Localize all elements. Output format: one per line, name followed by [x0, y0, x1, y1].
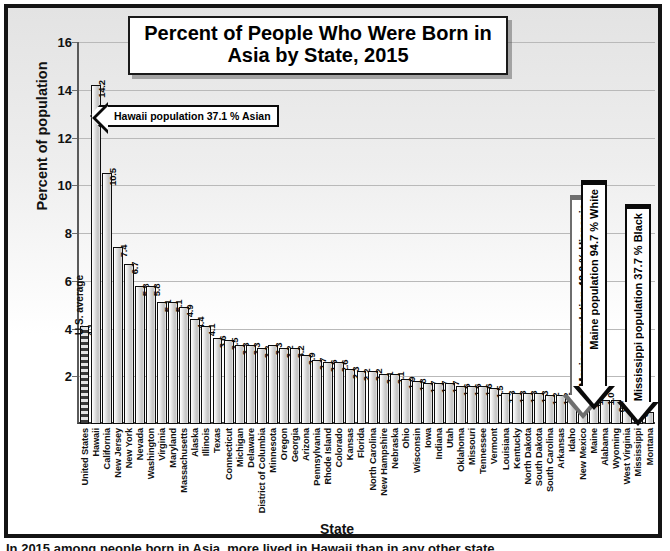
- x-label-slot: Rhode Island: [323, 426, 334, 522]
- x-label-slot: New Hampshire: [378, 426, 389, 522]
- annotation-hawaii-text: Hawaii population 37.1 % Asian: [106, 105, 279, 127]
- bar: 2.1: [379, 374, 389, 424]
- x-axis-tick-label: Rhode Island: [323, 428, 333, 485]
- annotation-mississippi-text: Mississippi population 37.7 % Black: [633, 213, 644, 401]
- x-axis-tick-label: Ohio: [401, 428, 411, 449]
- x-axis-tick-label: Idaho: [567, 428, 577, 452]
- x-axis-tick-label: Georgia: [290, 428, 300, 462]
- bar: 2.6: [334, 362, 344, 424]
- x-axis-tick-label: Iowa: [423, 428, 433, 448]
- x-label-slot: Maine: [589, 426, 600, 522]
- bar-slot: 2.6: [334, 42, 345, 424]
- x-axis-title: State: [8, 521, 666, 537]
- x-label-slot: District of Columbia: [256, 426, 267, 522]
- x-axis-tick-label: New Jersey: [113, 428, 123, 478]
- bottom-caption: In 2015 among people born in Asia, more …: [6, 542, 662, 551]
- bar-slot: 2.1: [378, 42, 389, 424]
- x-axis-tick-label: New Mexico: [578, 428, 588, 480]
- x-axis-tick-label: Kansas: [345, 428, 355, 460]
- annotation-callout-mississippi: Mississippi population 37.7 % Black: [617, 204, 659, 426]
- bar: 1.7: [423, 383, 433, 424]
- x-label-slot: Minnesota: [267, 426, 278, 522]
- x-label-slot: New Jersey: [112, 426, 123, 522]
- chart-frame: 246810121416 Percent of population 4.1U.…: [4, 4, 662, 538]
- x-axis-tick-label: Indiana: [434, 428, 444, 460]
- x-label-slot: Florida: [356, 426, 367, 522]
- bar: 14.2: [91, 85, 101, 424]
- x-axis-tick-label: Pennsylvania: [312, 428, 322, 486]
- x-label-slot: Texas: [212, 426, 223, 522]
- bar: 1.7: [434, 383, 444, 424]
- bar-slot: 4.4: [190, 42, 201, 424]
- bar-slot: 5.8: [145, 42, 156, 424]
- bar: 1.3: [501, 393, 511, 424]
- bar: 2.2: [368, 371, 378, 424]
- bar-slot: 4.9: [179, 42, 190, 424]
- bar: 7.4: [113, 247, 123, 424]
- bar-slot: 6.7: [123, 42, 134, 424]
- x-axis-tick-label: Colorado: [334, 428, 344, 468]
- bar-slot: 1.8: [411, 42, 422, 424]
- bar: 4.4: [190, 319, 200, 424]
- x-axis-category-labels: United StatesHawaiiCaliforniaNew JerseyN…: [79, 426, 655, 522]
- y-axis-tick-label: 2: [36, 369, 72, 384]
- annotation-maine-text: Maine population 94.7 % White: [589, 189, 600, 350]
- x-axis-tick-label: Massachusetts: [179, 428, 189, 493]
- x-label-slot: South Carolina: [544, 426, 555, 522]
- bar: 3.3: [246, 345, 256, 424]
- bar: 4.1: [201, 326, 211, 424]
- x-axis-tick-label: Arkansas: [556, 428, 566, 469]
- x-axis-tick-label: Alabama: [600, 428, 610, 466]
- bar-slot: 2.6: [323, 42, 334, 424]
- chart-screenshot: 246810121416 Percent of population 4.1U.…: [0, 0, 670, 551]
- x-label-slot: Michigan: [234, 426, 245, 522]
- x-label-slot: Indiana: [434, 426, 445, 522]
- x-axis-tick-label: Mississippi: [633, 428, 643, 476]
- x-label-slot: United States: [79, 426, 90, 522]
- x-axis-tick-label: Michigan: [235, 428, 245, 467]
- bar-slot: 3.5: [223, 42, 234, 424]
- x-label-slot: North Carolina: [367, 426, 378, 522]
- arrow-left-icon: [90, 105, 108, 127]
- bar-slot: 5.1: [168, 42, 179, 424]
- x-axis-tick-label: Montana: [645, 428, 655, 465]
- bar-slot: 5.1: [157, 42, 168, 424]
- x-axis-tick-label: Oklahoma: [456, 428, 466, 472]
- x-axis-tick-label: North Dakota: [523, 428, 533, 485]
- bar-slot: 2.9: [301, 42, 312, 424]
- bar-slot: 4.1U.S. average: [79, 42, 90, 424]
- bar: 5.8: [146, 286, 156, 424]
- chart-title-line-2: Asia by State, 2015: [138, 44, 498, 66]
- x-axis-tick-label: Arizona: [301, 428, 311, 461]
- y-axis-tick-label: 4: [36, 321, 72, 336]
- x-label-slot: Missouri: [467, 426, 478, 522]
- bar: 1.5: [489, 388, 499, 424]
- x-axis-tick-label: South Dakota: [534, 428, 544, 486]
- x-axis-tick-label: New York: [124, 428, 134, 468]
- bar-slot: 3.2: [278, 42, 289, 424]
- x-axis-tick-label: Delaware: [246, 428, 256, 468]
- x-label-slot: Virginia: [157, 426, 168, 522]
- bar-slot: 3.6: [212, 42, 223, 424]
- bar: 3.2: [279, 348, 289, 424]
- x-axis-tick-label: West Virginia: [622, 428, 632, 485]
- bar: 2.6: [323, 362, 333, 424]
- x-label-slot: South Dakota: [533, 426, 544, 522]
- x-label-slot: Utah: [445, 426, 456, 522]
- x-label-slot: Connecticut: [223, 426, 234, 522]
- bar: 5.1: [157, 302, 167, 424]
- x-label-slot: Wisconsin: [411, 426, 422, 522]
- bar: 1.2: [545, 395, 555, 424]
- x-axis-tick-label: Missouri: [467, 428, 477, 465]
- x-label-slot: Mississippi: [633, 426, 644, 522]
- chart-title-line-1: Percent of People Who Were Born in: [138, 22, 498, 44]
- bar-slot: 2.2: [356, 42, 367, 424]
- arrow-down-icon: [573, 386, 615, 410]
- x-label-slot: Wyoming: [611, 426, 622, 522]
- x-axis-tick-label: Vermont: [489, 428, 499, 464]
- x-label-slot: North Dakota: [522, 426, 533, 522]
- x-axis-tick-label: Connecticut: [224, 428, 234, 480]
- bar-slot: 14.2: [90, 42, 101, 424]
- x-axis-tick-label: Virginia: [157, 428, 167, 461]
- bar: 2.2: [357, 371, 367, 424]
